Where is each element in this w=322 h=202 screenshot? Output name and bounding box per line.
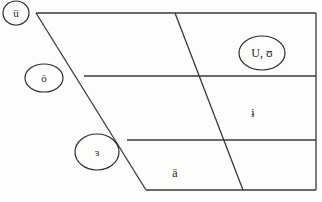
barred-i-label: ɨ [251, 107, 254, 119]
vowel-trapezoid-diagram [0, 0, 322, 202]
upsilon-label: U, ʊ [251, 47, 272, 59]
central-slanted-divider [175, 13, 243, 190]
u-umlaut-label: ü [13, 8, 19, 19]
open-mid-central-label: ɜ [95, 147, 100, 158]
o-umlaut-label: ö [41, 73, 47, 84]
a-umlaut-label: ä [172, 167, 177, 179]
left-slanted-edge [36, 13, 146, 190]
